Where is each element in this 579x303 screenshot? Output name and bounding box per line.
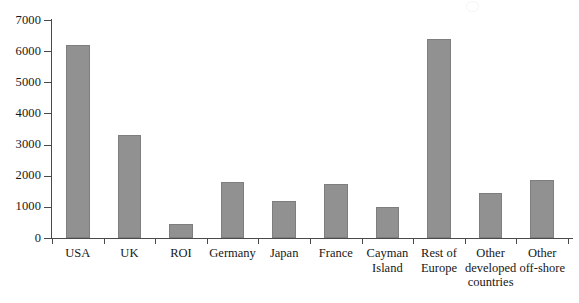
bar <box>530 180 553 238</box>
x-axis-category-label: Otherdevelopedcountries <box>465 246 517 290</box>
y-axis-tick-label-text: 7000 <box>1 14 41 27</box>
x-axis-category-label-line: Europe <box>413 261 465 276</box>
y-axis-tick <box>44 51 51 52</box>
y-axis-tick <box>44 82 51 83</box>
y-axis-tick-label: 5000 <box>0 76 41 89</box>
y-axis-tick-label: 2000 <box>0 169 41 182</box>
x-axis-category-label: France <box>310 246 362 261</box>
x-axis-line <box>44 238 573 239</box>
y-axis-tick-label: 1000 <box>0 200 41 213</box>
x-axis-category-label-line: Germany <box>207 246 259 261</box>
plot-area <box>52 20 568 238</box>
y-axis-tick-label: 0 <box>0 232 41 245</box>
x-axis-tick <box>258 239 259 244</box>
x-axis-tick <box>52 239 53 244</box>
bar <box>169 224 192 238</box>
bar <box>272 201 295 238</box>
x-axis-tick <box>207 239 208 244</box>
y-axis-tick <box>44 238 51 239</box>
x-axis-category-label-line: ROI <box>155 246 207 261</box>
y-axis-tick-label-text: 0 <box>1 232 41 245</box>
y-axis-tick <box>44 207 51 208</box>
x-axis-category-label-line: Cayman <box>362 246 414 261</box>
x-axis-category-label-line: off-shore <box>516 261 568 276</box>
x-axis-category-label-line: Japan <box>258 246 310 261</box>
bar-chart: 01000200030004000500060007000 USAUKROIGe… <box>0 0 579 303</box>
x-axis-tick <box>465 239 466 244</box>
x-axis-category-label-line: Other <box>516 246 568 261</box>
y-axis-tick-label-text: 3000 <box>1 138 41 151</box>
bar <box>479 193 502 238</box>
y-axis-tick <box>44 20 51 21</box>
x-axis-tick <box>310 239 311 244</box>
y-axis-tick-label-text: 1000 <box>1 200 41 213</box>
x-axis-category-label-line: Rest of <box>413 246 465 261</box>
x-axis-category-label: Rest ofEurope <box>413 246 465 275</box>
x-axis-tick <box>362 239 363 244</box>
x-axis-category-label: Otheroff-shore <box>516 246 568 275</box>
x-axis-tick <box>413 239 414 244</box>
scan-artifact <box>466 1 479 12</box>
y-axis-tick-label: 4000 <box>0 107 41 120</box>
bar <box>66 45 89 238</box>
y-axis-tick <box>44 113 51 114</box>
x-axis-category-label: USA <box>52 246 104 261</box>
y-axis-tick-label-text: 5000 <box>1 76 41 89</box>
x-axis-category-label: ROI <box>155 246 207 261</box>
x-axis-category-label: CaymanIsland <box>362 246 414 275</box>
y-axis-tick-label-text: 4000 <box>1 107 41 120</box>
x-axis-category-label-line: USA <box>52 246 104 261</box>
bar <box>221 182 244 238</box>
x-axis-category-label: Germany <box>207 246 259 261</box>
bar <box>118 135 141 238</box>
bar <box>427 39 450 238</box>
x-axis-tick <box>568 239 569 244</box>
x-axis-tick <box>104 239 105 244</box>
x-axis-category-label-line: Island <box>362 261 414 276</box>
x-axis-category-label-line: developed <box>465 261 517 276</box>
x-axis-tick <box>516 239 517 244</box>
y-axis-tick <box>44 145 51 146</box>
y-axis-tick-label: 7000 <box>0 14 41 27</box>
x-axis-category-label-line: Other <box>465 246 517 261</box>
bar <box>376 207 399 238</box>
x-axis-category-label: UK <box>104 246 156 261</box>
x-axis-category-label-line: France <box>310 246 362 261</box>
y-axis-tick-label: 3000 <box>0 138 41 151</box>
y-axis-tick-label-text: 2000 <box>1 169 41 182</box>
x-axis-tick <box>155 239 156 244</box>
x-axis-category-label-line: UK <box>104 246 156 261</box>
y-axis-tick <box>44 176 51 177</box>
x-axis-category-label: Japan <box>258 246 310 261</box>
x-axis-category-label-line: countries <box>465 275 517 290</box>
y-axis-tick-label-text: 6000 <box>1 45 41 58</box>
bar <box>324 184 347 239</box>
y-axis-tick-label: 6000 <box>0 45 41 58</box>
